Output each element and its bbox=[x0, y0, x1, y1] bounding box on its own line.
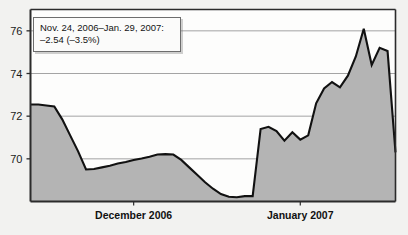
y-tick-label-76: 76 bbox=[10, 25, 22, 37]
x-tick-label-0: December 2006 bbox=[95, 209, 172, 221]
annotation-change-value: –2.54 (–3.5%) bbox=[40, 34, 174, 46]
annotation-tooltip: Nov. 24, 2006–Jan. 29, 2007: –2.54 (–3.5… bbox=[33, 17, 181, 52]
y-tick-label-70: 70 bbox=[10, 153, 22, 165]
y-tick-label-72: 72 bbox=[10, 110, 22, 122]
chart-container: 76747270 December 2006January 2007 Nov. … bbox=[0, 0, 408, 235]
y-tick-label-74: 74 bbox=[10, 68, 22, 80]
x-tick-label-1: January 2007 bbox=[267, 209, 334, 221]
annotation-date-range: Nov. 24, 2006–Jan. 29, 2007: bbox=[40, 22, 174, 34]
